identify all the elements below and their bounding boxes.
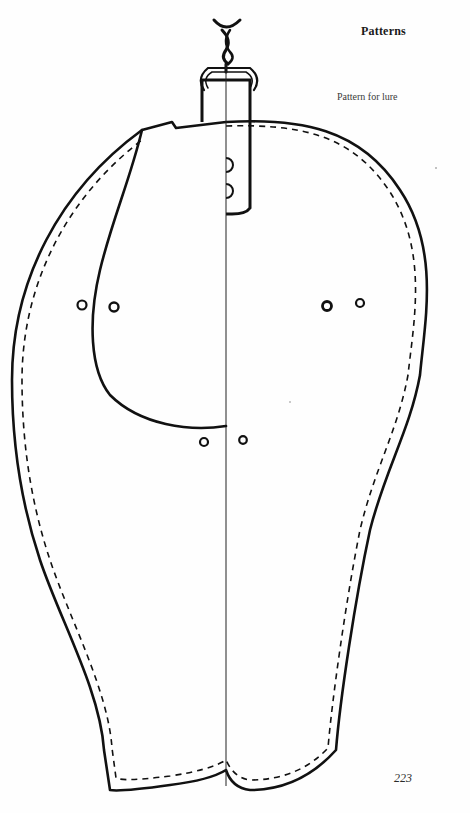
stitch-line	[22, 126, 416, 780]
hole-bottom-left	[200, 438, 208, 446]
hole-bottom-right	[239, 436, 247, 444]
hole-left-inner	[110, 303, 119, 312]
book-page: Patterns Pattern for lure 223	[0, 0, 470, 813]
punch-holes	[78, 299, 365, 446]
outer-outline	[12, 121, 427, 790]
lure-pattern-drawing	[0, 0, 470, 813]
hole-right-outer	[356, 299, 364, 307]
inner-flap-panel	[93, 130, 226, 428]
hole-right-inner	[323, 302, 332, 311]
hole-left-outer	[78, 301, 87, 310]
